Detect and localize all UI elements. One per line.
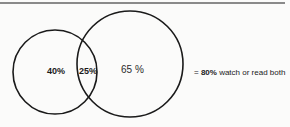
venn-diagram	[0, 0, 290, 127]
left-exclusive-label: 40%	[47, 66, 65, 76]
result-suffix: watch or read both	[217, 68, 285, 77]
result-text: = 80% watch or read both	[194, 68, 285, 78]
result-prefix: =	[194, 68, 201, 77]
result-value: 80%	[201, 68, 217, 77]
right-exclusive-label: 65 %	[121, 65, 144, 75]
intersection-label: 25%	[79, 66, 97, 76]
